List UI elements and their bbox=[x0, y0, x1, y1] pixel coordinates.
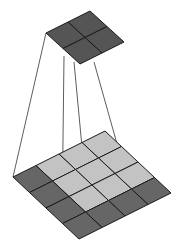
output-grid bbox=[46, 11, 124, 64]
projection-line bbox=[13, 33, 46, 177]
projection-line bbox=[74, 62, 82, 147]
input-grid bbox=[13, 131, 171, 239]
convolution-diagram bbox=[0, 0, 180, 245]
